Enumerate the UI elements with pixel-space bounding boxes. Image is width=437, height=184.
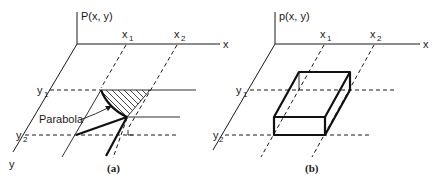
svg-text:1: 1	[44, 90, 49, 99]
y2-label-b: y 2	[213, 129, 224, 144]
svg-text:y: y	[37, 84, 43, 96]
svg-text:1: 1	[243, 90, 248, 99]
x1-label-b: x 1	[320, 28, 332, 43]
parabola-hatched-region	[88, 78, 174, 116]
svg-text:1: 1	[327, 34, 332, 43]
svg-text:y: y	[16, 129, 22, 141]
parabola-arrow	[80, 107, 110, 120]
x1-label-a: x 1	[122, 28, 134, 43]
z-axis-label-a: P(x, y)	[81, 10, 113, 22]
x2-label-a: x 2	[174, 28, 186, 43]
caption-b: (b)	[305, 162, 319, 175]
svg-text:x: x	[174, 28, 180, 40]
probability-density-diagram: P(x, y) x 1 x 2 y 1 y 2 y	[0, 0, 437, 184]
svg-text:x: x	[370, 28, 376, 40]
x1-guide-b	[261, 45, 324, 157]
x2-guide-a	[129, 45, 177, 127]
x-axis-label-a: x	[223, 38, 229, 50]
right-angle-marker-a	[128, 130, 133, 135]
svg-text:x: x	[122, 28, 128, 40]
parabola-right-edge	[127, 90, 150, 117]
uniform-density-box	[274, 72, 350, 135]
z-axis-label-b: p(x, y)	[279, 10, 310, 22]
svg-text:2: 2	[219, 135, 224, 144]
panel-b: p(x, y) x x 1 x 2 y 1 y 2 y	[213, 10, 430, 184]
x2-label-b: x 2	[370, 28, 382, 43]
svg-text:1: 1	[129, 34, 134, 43]
y1-label-b: y 1	[236, 84, 248, 99]
x1-guide-a	[101, 45, 126, 88]
svg-text:2: 2	[23, 135, 28, 144]
svg-text:x: x	[320, 28, 326, 40]
caption-a: (a)	[107, 162, 120, 175]
svg-text:2: 2	[181, 34, 186, 43]
parabola-label: Parabola	[39, 113, 84, 125]
x-axis-label-b: x	[423, 38, 429, 50]
svg-text:y: y	[236, 84, 242, 96]
panel-a: P(x, y) x 1 x 2 y 1 y 2 y	[9, 10, 220, 175]
svg-text:2: 2	[377, 34, 382, 43]
y1-label-a: y 1	[37, 84, 49, 99]
y-axis-label-a: y	[9, 158, 15, 170]
